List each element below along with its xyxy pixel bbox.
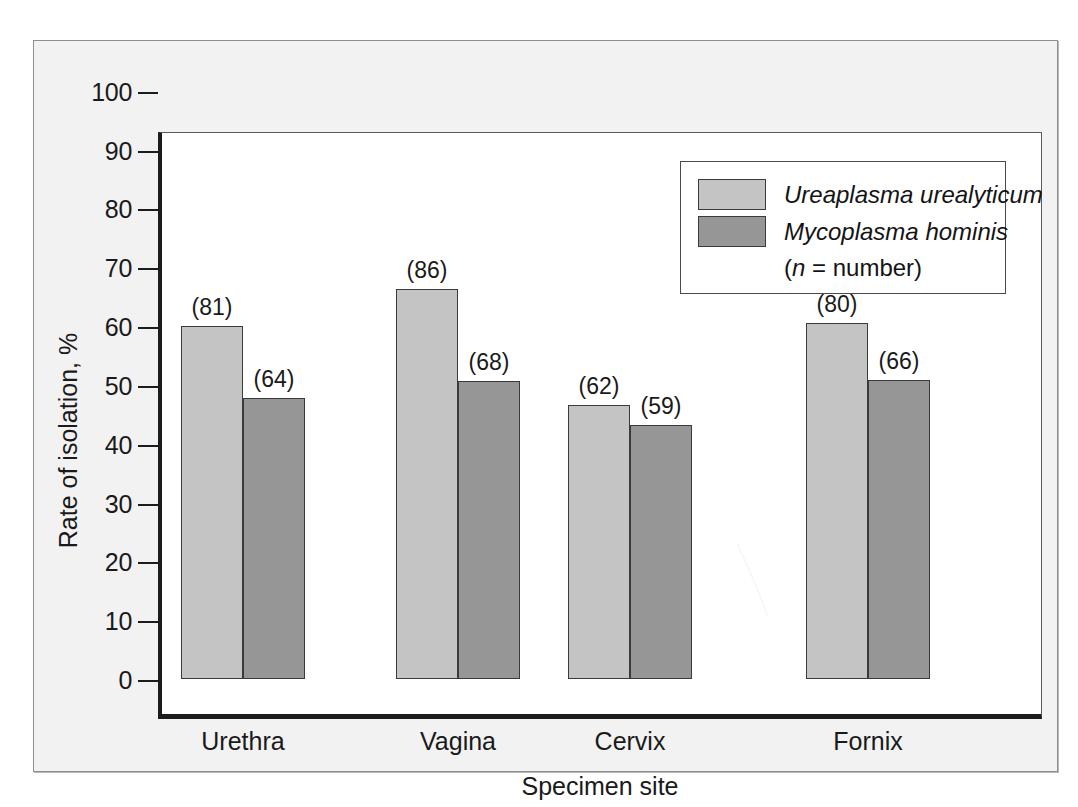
x-axis-title: Specimen site — [158, 772, 1042, 801]
bar-urethra-ureaplasma — [181, 326, 243, 679]
y-axis-tick — [138, 327, 158, 329]
y-axis-tick — [138, 151, 158, 153]
bar-cervix-mycoplasma — [630, 425, 692, 679]
y-tick-label: 90 — [58, 137, 132, 166]
bar-vagina-mycoplasma — [458, 381, 520, 679]
bar-label-urethra-mycoplasma: (64) — [254, 366, 295, 393]
bar-fornix-ureaplasma — [806, 323, 868, 679]
y-axis-tick — [138, 92, 158, 94]
bar-label-urethra-ureaplasma: (81) — [192, 294, 233, 321]
x-tick-label-cervix: Cervix — [595, 727, 666, 756]
y-axis-tick — [138, 504, 158, 506]
legend-note-symbol: n — [792, 254, 805, 281]
legend-swatch-mycoplasma — [698, 216, 766, 247]
y-axis-tick — [138, 445, 158, 447]
bar-vagina-ureaplasma — [396, 289, 458, 679]
legend-label-ureaplasma: Ureaplasma urealyticum — [784, 181, 1043, 209]
y-tick-label: 100 — [58, 78, 132, 107]
bar-label-fornix-mycoplasma: (66) — [879, 348, 920, 375]
y-axis-tick — [138, 209, 158, 211]
bar-label-vagina-ureaplasma: (86) — [407, 257, 448, 284]
x-tick-label-vagina: Vagina — [420, 727, 496, 756]
y-axis-tick — [138, 621, 158, 623]
bar-label-cervix-mycoplasma: (59) — [641, 393, 682, 420]
bar-cervix-ureaplasma — [568, 405, 630, 679]
y-axis-title: Rate of isolation, % — [54, 201, 83, 681]
y-axis-tick — [138, 680, 158, 682]
y-axis-tick — [138, 562, 158, 564]
legend-note-prefix: ( — [784, 254, 792, 281]
bar-label-fornix-ureaplasma: (80) — [817, 291, 858, 318]
x-tick-label-fornix: Fornix — [833, 727, 902, 756]
bar-urethra-mycoplasma — [243, 398, 305, 679]
bar-label-vagina-mycoplasma: (68) — [469, 349, 510, 376]
figure-page: 100 90 80 70 60 50 40 30 20 10 0 Rate of… — [0, 0, 1078, 807]
legend-item-ureaplasma: Ureaplasma urealyticum — [698, 179, 1043, 210]
legend-note: (n = number) — [784, 254, 922, 282]
legend-swatch-ureaplasma — [698, 179, 766, 210]
y-axis-tick — [138, 386, 158, 388]
bar-label-cervix-ureaplasma: (62) — [579, 373, 620, 400]
legend: Ureaplasma urealyticum Mycoplasma homini… — [680, 161, 1006, 294]
figure-frame: 100 90 80 70 60 50 40 30 20 10 0 Rate of… — [33, 40, 1058, 772]
legend-item-mycoplasma: Mycoplasma hominis — [698, 216, 1008, 247]
legend-label-mycoplasma: Mycoplasma hominis — [784, 218, 1008, 246]
legend-note-suffix: = number) — [805, 254, 922, 281]
y-axis-tick — [138, 268, 158, 270]
x-tick-label-urethra: Urethra — [201, 727, 284, 756]
bar-fornix-mycoplasma — [868, 380, 930, 679]
